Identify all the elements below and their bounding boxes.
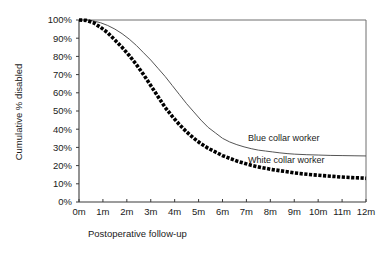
x-axis-tick-label: 6m — [216, 206, 229, 217]
x-axis-tick-label: 1m — [96, 206, 109, 217]
y-axis-tick-label: 50% — [53, 105, 73, 116]
x-axis-tick-label: 10m — [309, 206, 328, 217]
cumulative-disability-chart: 0%10%20%30%40%50%60%70%80%90%100%0m1m2m3… — [0, 0, 384, 256]
x-axis-tick-label: 0m — [72, 206, 85, 217]
chart-container: 0%10%20%30%40%50%60%70%80%90%100%0m1m2m3… — [0, 0, 384, 256]
x-axis-tick-label: 3m — [144, 206, 157, 217]
series-label-blue-collar-worker: Blue collar worker — [248, 133, 320, 143]
x-axis-title: Postoperative follow-up — [88, 228, 187, 239]
x-axis-tick-label: 2m — [120, 206, 133, 217]
y-axis-tick-label: 40% — [53, 124, 73, 135]
x-axis-tick-label: 11m — [333, 206, 351, 217]
y-axis-tick-label: 10% — [53, 178, 73, 189]
y-axis-tick-label: 70% — [53, 69, 73, 80]
tick-labels-group: 0%10%20%30%40%50%60%70%80%90%100%0m1m2m3… — [48, 14, 376, 217]
x-axis-tick-label: 4m — [168, 206, 181, 217]
y-axis-tick-label: 80% — [53, 51, 73, 62]
y-axis-tick-label: 0% — [58, 196, 72, 207]
y-axis-tick-label: 30% — [53, 142, 73, 153]
axes-group — [76, 20, 366, 202]
series-label-white-collar-worker: White collar worker — [248, 155, 325, 165]
series-line-blue-collar-worker — [79, 20, 366, 156]
x-axis-tick-label: 12m — [357, 206, 376, 217]
x-axis-tick-label: 7m — [240, 206, 253, 217]
y-axis-tick-label: 100% — [48, 14, 73, 25]
x-axis-tick-label: 8m — [264, 206, 277, 217]
x-axis-tick-label: 5m — [192, 206, 205, 217]
y-axis-tick-label: 20% — [53, 160, 73, 171]
y-axis-tick-label: 90% — [53, 33, 73, 44]
x-axis-tick-label: 9m — [288, 206, 301, 217]
y-axis-tick-label: 60% — [53, 87, 73, 98]
y-axis-title: Cumulative % disabled — [13, 64, 24, 161]
series-labels-group: Blue collar workerWhite collar worker — [248, 133, 325, 165]
